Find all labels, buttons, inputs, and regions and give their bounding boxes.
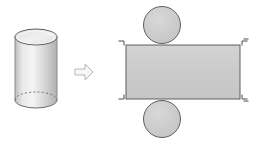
net-label: net of cylinder	[0, 14, 26, 19]
net-diagram	[119, 7, 248, 138]
cylinder-body	[15, 37, 57, 108]
top-right-corner-mark	[242, 41, 247, 45]
bottom-left-corner-mark	[119, 95, 124, 99]
right-arrow-icon	[75, 64, 93, 80]
bottom-circle-label: bottom base	[0, 32, 23, 37]
figure-canvas: cylinder becomes net of cylinder lateral…	[0, 0, 265, 144]
arrow-label: becomes	[0, 8, 16, 13]
net-top-circle	[144, 7, 181, 44]
rectangle-label: lateral surface	[0, 20, 26, 25]
geometry-illustration: cylinder becomes net of cylinder lateral…	[0, 0, 265, 144]
bottom-right-corner-mark	[242, 95, 247, 99]
net-bottom-circle	[144, 101, 181, 138]
top-circle-label: top base	[0, 26, 16, 31]
transform-arrow	[75, 64, 93, 80]
net-lateral-rectangle	[126, 45, 240, 99]
top-left-corner-mark	[119, 41, 124, 45]
figure-title: Cylinder and its net	[0, 38, 35, 43]
solid-label: cylinder	[0, 2, 14, 7]
